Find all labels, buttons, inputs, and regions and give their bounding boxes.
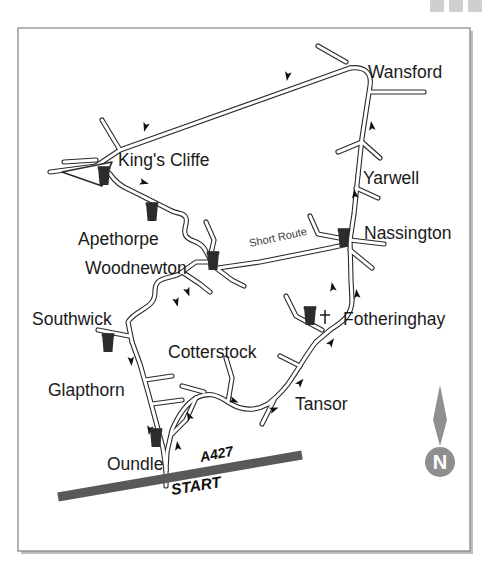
decorative-gray-bars [430, 0, 482, 12]
pub-glass-icon [304, 306, 317, 325]
place-label-southwick: Southwick [32, 309, 112, 329]
compass-north-letter: N [433, 451, 447, 473]
place-label-fotheringhay: Fotheringhay [343, 309, 445, 329]
place-label-glapthorn: Glapthorn [48, 380, 125, 400]
map-canvas: Wansford King's Cliffe Yarwell Apethorpe… [0, 0, 488, 575]
place-label-cotterstock: Cotterstock [168, 342, 257, 362]
place-label-wansford: Wansford [368, 62, 442, 82]
pub-glass-icon [98, 166, 111, 185]
place-label-woodnewton: Woodnewton [85, 258, 187, 278]
place-label-yarwell: Yarwell [363, 168, 419, 188]
gray-bar-2 [449, 0, 463, 12]
walking-route-map: Wansford King's Cliffe Yarwell Apethorpe… [0, 0, 488, 575]
place-label-nassington: Nassington [364, 223, 452, 243]
place-label-apethorpe: Apethorpe [78, 229, 159, 249]
place-label-kings-cliffe: King's Cliffe [118, 150, 210, 170]
place-label-tansor: Tansor [295, 394, 348, 414]
gray-bar-3 [468, 0, 482, 12]
gray-bar-1 [430, 0, 444, 12]
pub-glass-icon [146, 202, 159, 221]
pub-glass-icon [338, 228, 351, 247]
pub-glass-icon [102, 333, 115, 352]
pub-glass-icon [207, 251, 220, 270]
place-label-oundle: Oundle [107, 454, 163, 474]
pub-glass-icon [150, 428, 163, 447]
